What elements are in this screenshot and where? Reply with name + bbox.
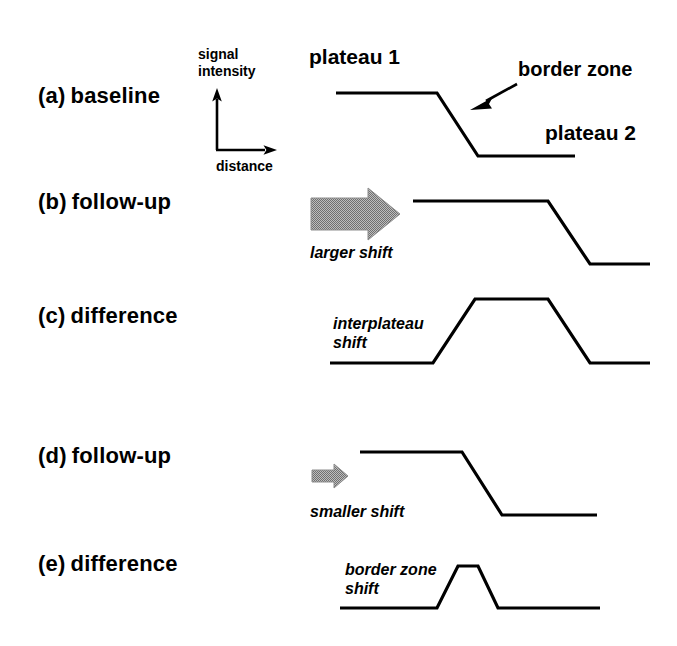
row-label-b: (b)follow-up xyxy=(38,190,171,215)
row-label-a: (a)baseline xyxy=(38,84,160,109)
y-axis-label: signal intensity xyxy=(198,46,256,79)
plateau-1-label: plateau 1 xyxy=(309,45,400,69)
row-a-title: baseline xyxy=(71,83,161,108)
row-a-paren: (a) xyxy=(38,83,66,108)
border-zone-shift-label-line1: border zone xyxy=(345,560,437,579)
x-axis-label: distance xyxy=(216,158,273,175)
larger-shift-label: larger shift xyxy=(310,243,393,262)
larger-shift-arrow-icon xyxy=(311,188,400,240)
row-label-d: (d)follow-up xyxy=(38,444,171,469)
interplateau-shift-label-line1: interplateau xyxy=(333,314,424,333)
smaller-shift-label-line1: smaller shift xyxy=(310,502,404,521)
larger-shift-label-line1: larger shift xyxy=(310,243,393,262)
interplateau-shift-label: interplateau shift xyxy=(333,314,424,352)
plateau-2-label: plateau 2 xyxy=(545,121,636,145)
smaller-shift-label: smaller shift xyxy=(310,502,404,521)
profile-curve-a xyxy=(336,93,575,156)
row-c-title: difference xyxy=(71,303,178,328)
y-axis-label-line2: intensity xyxy=(198,63,256,80)
smaller-shift-arrow-icon xyxy=(312,464,348,488)
border-zone-shift-label-line2: shift xyxy=(345,579,437,598)
row-b-title: follow-up xyxy=(72,189,172,214)
border-zone-pointer-arrow-icon xyxy=(470,84,517,110)
border-zone-label: border zone xyxy=(518,58,632,80)
row-label-e: (e)difference xyxy=(38,552,178,577)
y-axis-label-line1: signal xyxy=(198,46,256,63)
figure-canvas: signal intensity distance plateau 1 plat… xyxy=(0,0,677,646)
row-d-title: follow-up xyxy=(72,443,172,468)
x-axis-arrowhead-icon xyxy=(264,145,278,155)
axes-group xyxy=(212,88,277,155)
row-c-paren: (c) xyxy=(38,303,66,328)
profile-curve-b xyxy=(413,201,650,264)
row-label-c: (c)difference xyxy=(38,304,178,329)
border-zone-shift-label: border zone shift xyxy=(345,560,437,598)
row-e-title: difference xyxy=(71,551,178,576)
interplateau-shift-label-line2: shift xyxy=(333,333,424,352)
row-d-paren: (d) xyxy=(38,443,67,468)
row-e-paren: (e) xyxy=(38,551,66,576)
row-b-paren: (b) xyxy=(38,189,67,214)
